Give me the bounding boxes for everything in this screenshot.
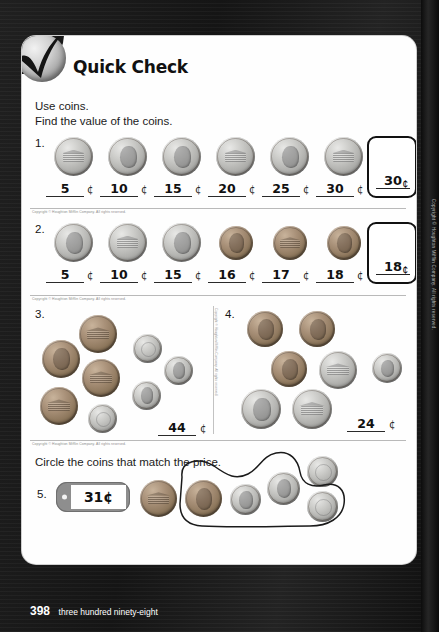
coin-dime-circled[interactable]	[230, 484, 261, 515]
coin-penny	[327, 226, 361, 260]
answer-blank[interactable]: 30	[316, 182, 354, 197]
cent-symbol: ¢	[87, 184, 93, 195]
cent-symbol: ¢	[141, 184, 147, 195]
coin-nickel	[319, 351, 357, 389]
coin-dime	[132, 381, 161, 410]
coin-dime	[88, 404, 117, 433]
price-tag: 31¢	[56, 482, 130, 512]
cent-symbol: ¢	[303, 184, 309, 195]
problem-1-answer-box[interactable]: 30 ¢	[367, 136, 416, 198]
problem-1-number: 1.	[35, 137, 45, 149]
coin-nickel	[292, 389, 332, 429]
coin-dime	[164, 356, 193, 385]
answer-blank[interactable]: 17	[262, 268, 300, 283]
answer-blank[interactable]: 10	[100, 268, 138, 283]
coin-penny	[271, 351, 307, 387]
fine-print: Copyright © Houghton Mifflin Company. Al…	[32, 442, 126, 446]
cent-symbol: ¢	[200, 423, 206, 434]
page-number: 398	[30, 604, 50, 618]
problem-3-answer[interactable]: 44	[158, 421, 196, 436]
section-divider	[30, 440, 406, 441]
coin-dime	[372, 353, 402, 383]
cent-symbol: ¢	[249, 184, 255, 195]
fine-print: Copyright © Houghton Mifflin Company. Al…	[32, 297, 126, 301]
coin-penny	[273, 226, 307, 260]
section-divider	[30, 295, 406, 296]
cent-symbol: ¢	[87, 270, 93, 281]
coin-penny	[247, 311, 283, 347]
instruction-line-2: Find the value of the coins.	[35, 114, 365, 129]
cent-symbol: ¢	[249, 270, 255, 281]
coin-nickel	[162, 223, 201, 262]
worksheet-sheet: Quick Check Use coins. Find the value of…	[22, 36, 416, 564]
cent-symbol: ¢	[389, 419, 395, 430]
cent-symbol: ¢	[195, 270, 201, 281]
worksheet-header: Quick Check	[22, 36, 416, 82]
coin-penny	[219, 226, 253, 260]
page-footer: 398 three hundred ninety-eight	[30, 604, 158, 618]
fine-print: Copyright © Houghton Mifflin Company. Al…	[32, 210, 126, 214]
answer-blank[interactable]: 10	[100, 182, 138, 197]
cent-symbol: ¢	[402, 179, 408, 190]
price-value: 31¢	[71, 485, 126, 509]
coin-nickel	[108, 223, 147, 262]
cent-symbol: ¢	[357, 270, 363, 281]
answer-blank[interactable]: 18	[316, 268, 354, 283]
instruction-line-1: Use coins.	[35, 99, 365, 114]
coin-nickel	[108, 137, 147, 176]
coin-penny[interactable]	[140, 480, 177, 517]
cent-symbol: ¢	[357, 184, 363, 195]
coin-dime-circled[interactable]	[307, 491, 338, 522]
answer-blank[interactable]: 25	[262, 182, 300, 197]
cent-symbol: ¢	[195, 184, 201, 195]
instructions-block: Use coins. Find the value of the coins.	[35, 99, 365, 129]
answer-blank[interactable]: 20	[208, 182, 246, 197]
coin-dime[interactable]	[307, 456, 338, 487]
price-tag-hole-icon	[62, 495, 67, 500]
answer-blank[interactable]: 16	[208, 268, 246, 283]
cent-symbol: ¢	[402, 265, 408, 276]
coin-dime-circled[interactable]	[267, 472, 300, 505]
problem-5-number: 5.	[37, 488, 47, 500]
coin-nickel	[270, 137, 309, 176]
coin-penny	[82, 359, 120, 397]
coin-dime	[133, 334, 162, 363]
page-edge-shadow	[421, 0, 439, 632]
section-divider	[30, 208, 406, 209]
copyright-notice: Copyright © Houghton Mifflin Company. Al…	[431, 199, 436, 330]
answer-blank[interactable]: 5	[46, 268, 84, 283]
problem-3-number: 3.	[35, 308, 45, 320]
problem-4-number: 4.	[225, 308, 235, 320]
checkmark-icon	[22, 36, 70, 80]
coin-penny	[299, 311, 335, 347]
coin-nickel	[54, 223, 93, 262]
problem-2-answer-box[interactable]: 18 ¢	[367, 222, 416, 284]
coin-penny	[79, 315, 117, 353]
answer-blank[interactable]: 15	[154, 268, 192, 283]
coin-penny	[42, 340, 80, 378]
coin-penny	[40, 387, 78, 425]
coin-penny-circled[interactable]	[185, 480, 222, 517]
cent-symbol: ¢	[303, 270, 309, 281]
quick-check-logo	[22, 36, 68, 84]
answer-blank[interactable]: 5	[46, 182, 84, 197]
coin-nickel	[324, 137, 363, 176]
coin-nickel	[216, 137, 255, 176]
fine-print: Copyright © Houghton Mifflin Company. Al…	[214, 308, 218, 396]
coin-nickel	[54, 137, 93, 176]
answer-blank[interactable]: 15	[154, 182, 192, 197]
problem-2-number: 2.	[35, 223, 45, 235]
coin-nickel	[162, 137, 201, 176]
coin-nickel	[241, 389, 281, 429]
page-title: Quick Check	[73, 57, 188, 77]
page-number-words: three hundred ninety-eight	[59, 607, 158, 617]
problem-4-answer[interactable]: 24	[347, 417, 385, 432]
cent-symbol: ¢	[141, 270, 147, 281]
